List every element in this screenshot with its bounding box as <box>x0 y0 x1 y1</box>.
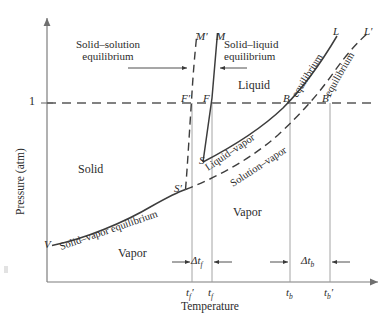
tick-sub: b <box>289 292 293 301</box>
callout-line-2: equilibrium <box>224 50 316 62</box>
point-label-M-prime: M′ <box>196 30 208 42</box>
vapor-region-label-left: Vapor <box>118 247 147 260</box>
delta-tb-symbol: Δt <box>301 254 311 266</box>
x-tick-label-tf-prime: tf′ <box>186 286 194 302</box>
x-tick-label-tf: tf <box>208 286 213 302</box>
delta-tf-label: Δtf <box>191 254 203 270</box>
callout-line-2: equilibrium <box>48 50 168 62</box>
point-label-M: M <box>216 30 225 42</box>
point-label-S: S <box>199 154 205 166</box>
y-axis-title: Pressure (atm) <box>14 148 26 215</box>
page-margin-artifact <box>4 266 8 273</box>
y-axis-tick-label-1: 1 <box>29 95 35 108</box>
delta-tb-subscript: b <box>311 260 315 269</box>
tick-prime: ′ <box>191 286 193 298</box>
point-label-S-prime: S′ <box>174 182 182 194</box>
point-label-B-prime: B′ <box>322 92 331 104</box>
point-label-F-prime: F′ <box>181 92 190 104</box>
solution-vapor-equilibrium-label-cont: equilibrium <box>322 50 356 98</box>
delta-tb-label: Δtb <box>301 254 314 270</box>
solid-solution-equilibrium-callout: Solid–solution equilibrium <box>48 38 168 63</box>
point-label-F: F <box>203 92 210 104</box>
x-axis-title: Temperature <box>181 300 239 313</box>
tick-sub: f <box>211 292 213 301</box>
point-label-L-prime: L′ <box>364 25 373 37</box>
callout-line-1: Solid–solution <box>48 38 168 50</box>
point-label-V: V <box>44 238 51 250</box>
x-tick-label-tb: tb <box>286 286 293 302</box>
solid-solution-curve <box>186 33 198 190</box>
vapor-region-label-right: Vapor <box>233 206 262 219</box>
tick-prime: ′ <box>331 286 333 298</box>
curve-label-group: Solid–vapor equilibrium Liquid–vapor equ… <box>58 50 356 252</box>
liquid-region-label: Liquid <box>238 79 270 92</box>
callout-line-1: Solid–liquid <box>224 38 316 50</box>
phase-diagram-figure: Solid–vapor equilibrium Liquid–vapor equ… <box>0 0 392 324</box>
point-label-L: L <box>333 25 339 37</box>
x-tick-label-tb-prime: tb′ <box>324 286 333 302</box>
solid-region-label: Solid <box>78 163 103 176</box>
solid-liquid-equilibrium-callout: Solid–liquid equilibrium <box>224 38 316 63</box>
point-label-B: B <box>283 92 290 104</box>
delta-tf-subscript: f <box>201 260 203 269</box>
delta-tf-symbol: Δt <box>191 254 201 266</box>
